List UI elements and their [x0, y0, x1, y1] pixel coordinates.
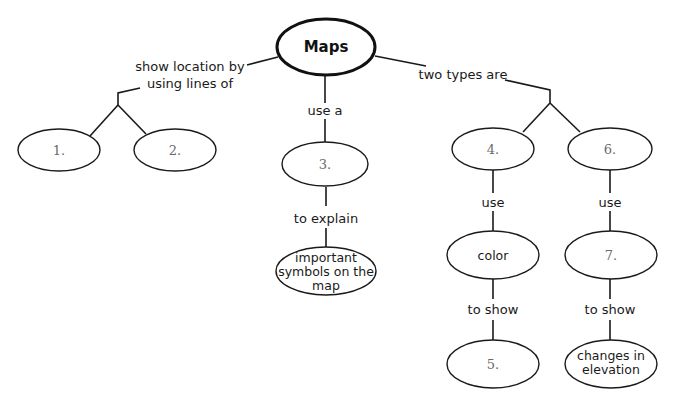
node-1-label: 1. [53, 143, 65, 158]
node-7: 7. [565, 231, 657, 279]
link-show-location-line2: using lines of [147, 76, 234, 91]
node-maps-label: Maps [304, 38, 349, 56]
node-3-label: 3. [319, 157, 331, 172]
node-5: 5. [447, 340, 539, 388]
node-3: 3. [282, 142, 368, 186]
node-7-label: 7. [605, 248, 617, 263]
node-color: color [447, 231, 539, 279]
link-use-a: use a [307, 103, 342, 118]
link-to-show-right: to show [585, 302, 636, 317]
node-4-label: 4. [487, 142, 499, 157]
node-symbols: important symbols on the map [276, 247, 376, 295]
node-maps: Maps [277, 19, 375, 75]
node-4: 4. [452, 128, 534, 170]
node-elevation: changes in elevation [565, 340, 657, 388]
node-5-label: 5. [487, 357, 499, 372]
node-6-label: 6. [604, 142, 616, 157]
link-show-location-line1: show location by [135, 59, 245, 74]
link-use-left: use [481, 195, 504, 210]
node-elevation-line2: elevation [582, 362, 640, 377]
connectors [90, 56, 610, 340]
link-two-types: two types are [419, 67, 508, 82]
link-use-right: use [598, 195, 621, 210]
connector-to-node-1 [90, 105, 118, 136]
connector-to-node-6 [550, 103, 580, 132]
connector-to-node-4 [523, 103, 550, 132]
concept-map: Maps show location by using lines of use… [0, 0, 674, 402]
node-symbols-line1: important [295, 250, 357, 265]
node-symbols-line2: symbols on the [278, 264, 374, 279]
node-2-label: 2. [169, 143, 181, 158]
connector-maps-location [247, 57, 278, 65]
node-1: 1. [18, 129, 100, 171]
connector-to-node-2 [118, 105, 146, 134]
link-to-explain: to explain [294, 211, 358, 226]
link-to-show-left: to show [468, 302, 519, 317]
node-color-label: color [478, 248, 510, 263]
connector-maps-two-types [375, 56, 426, 66]
node-symbols-line3: map [312, 278, 340, 293]
node-2: 2. [134, 129, 216, 171]
node-6: 6. [568, 128, 652, 170]
connector-location-bracket [118, 88, 140, 105]
node-elevation-line1: changes in [577, 348, 645, 363]
connector-types-bracket [505, 80, 550, 103]
